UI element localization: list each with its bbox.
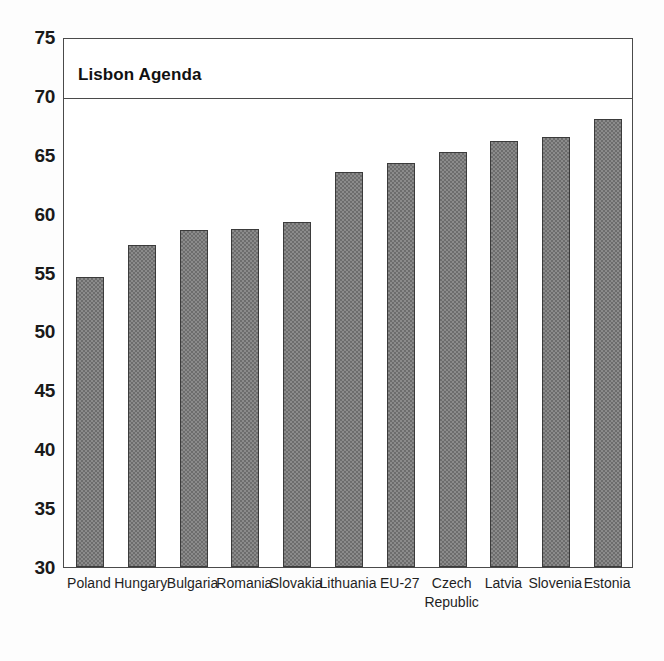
y-tick-label: 70 [34,86,55,108]
x-tick-label: Hungary [114,574,167,593]
y-tick-label: 50 [34,321,55,343]
x-tick-label: Poland [67,574,111,593]
y-tick-label: 75 [34,27,55,49]
bar [387,163,415,567]
x-axis: PolandHungaryBulgariaRomaniaSlovakiaLith… [63,574,633,644]
bar-chart-figure: 30354045505560657075 Lisbon Agenda Polan… [0,0,664,661]
bar [542,137,570,567]
y-tick-label: 40 [34,439,55,461]
bars-layer [64,39,632,567]
bar [335,172,363,567]
y-tick-label: 60 [34,204,55,226]
y-tick-label: 65 [34,145,55,167]
x-tick-label: Romania [216,574,272,593]
x-tick-label: Bulgaria [167,574,218,593]
y-tick-label: 30 [34,557,55,579]
x-tick-label: Czech Republic [424,574,478,612]
x-tick-label: Slovakia [270,574,323,593]
bar [76,277,104,567]
bar [594,119,622,567]
bar [231,229,259,567]
x-tick-label: Estonia [584,574,631,593]
y-tick-label: 35 [34,498,55,520]
x-tick-label: Slovenia [528,574,582,593]
bar [283,222,311,567]
lisbon-agenda-label: Lisbon Agenda [78,65,201,85]
y-tick-label: 55 [34,263,55,285]
x-tick-label: EU-27 [380,574,420,593]
bar [439,152,467,567]
x-tick-label: Latvia [485,574,522,593]
y-tick-label: 45 [34,380,55,402]
lisbon-agenda-reference-line [64,98,632,99]
bar [490,141,518,567]
bar [180,230,208,567]
x-tick-label: Lithuania [320,574,377,593]
bar [128,245,156,567]
y-axis: 30354045505560657075 [0,0,63,661]
plot-area: Lisbon Agenda [63,38,633,568]
